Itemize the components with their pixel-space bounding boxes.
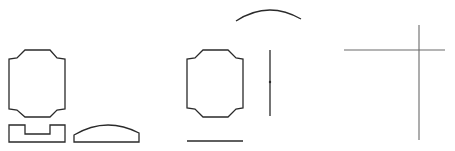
midpoint-dot [269,81,271,83]
dome-profile [74,125,139,142]
diagram-canvas [0,0,455,151]
octagon-profile-middle [187,50,243,117]
arc-line [236,10,301,21]
diagram-svg [0,0,455,151]
octagon-profile-left [9,50,65,117]
channel-profile [9,125,65,142]
